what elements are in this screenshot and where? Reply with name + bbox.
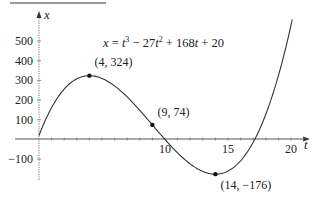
data-point-marker	[213, 172, 217, 176]
data-point-marker	[150, 123, 154, 127]
y-tick-label: 500	[15, 34, 33, 48]
chart-formula: x = t3 − 27t2 + 168t + 20	[102, 35, 224, 50]
y-tick-label: 300	[15, 73, 33, 87]
data-point-marker	[87, 73, 91, 77]
x-tick-label: 20	[285, 142, 297, 156]
y-tick-label: 100	[15, 113, 33, 127]
x-tick-label: 15	[222, 142, 234, 156]
y-tick-label: 400	[15, 54, 33, 68]
x-axis-label: t	[304, 137, 308, 152]
data-point-label: (14, −176)	[220, 178, 271, 192]
y-axis-label: x	[43, 7, 50, 22]
y-ticks: −100100200300400500	[8, 34, 41, 166]
y-axis-arrow-icon	[37, 11, 42, 18]
y-tick-label: 200	[15, 93, 33, 107]
annotated-points: (4, 324)(9, 74)(14, −176)	[87, 55, 271, 193]
y-tick-label: −100	[8, 152, 33, 166]
data-point-label: (9, 74)	[157, 105, 189, 119]
data-point-label: (4, 324)	[94, 55, 132, 69]
chart: 101520 −100100200300400500 x t x = t3 − …	[0, 0, 317, 197]
